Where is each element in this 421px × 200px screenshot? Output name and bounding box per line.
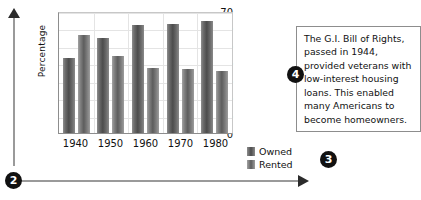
legend-item-owned: Owned — [247, 146, 293, 157]
legend-label-rented: Rented — [259, 159, 293, 170]
bar-group — [59, 13, 94, 133]
y-axis-label: Percentage — [37, 11, 47, 91]
marker-badge-3: 3 — [320, 151, 337, 168]
marker-badge-2: 2 — [5, 172, 22, 189]
bar-group — [128, 13, 163, 133]
bar-rented-1950 — [112, 56, 124, 133]
bar-owned-1960 — [132, 25, 144, 133]
bar-rented-1970 — [182, 69, 194, 133]
bar-rented-1980 — [216, 71, 228, 133]
annotation-vertical-arrow-head — [8, 8, 20, 18]
legend-swatch-icon-owned — [247, 147, 255, 156]
legend-swatch-icon-rented — [247, 160, 255, 169]
bar-owned-1940 — [63, 58, 75, 133]
x-axis-tick: 1980 — [198, 138, 233, 154]
bar-group — [163, 13, 198, 133]
bar-groups — [59, 13, 232, 133]
bar-rented-1940 — [78, 35, 90, 133]
bar-owned-1950 — [97, 38, 109, 133]
bar-owned-1980 — [201, 21, 213, 133]
marker-badge-4: 4 — [287, 66, 304, 83]
annotation-horizontal-arrow-head — [298, 175, 309, 187]
annotation-vertical-arrow-line — [13, 16, 15, 166]
x-axis-tick: 1960 — [128, 138, 163, 154]
x-axis-tick: 1940 — [58, 138, 93, 154]
chart-legend: Owned Rented — [247, 146, 293, 172]
bar-group — [94, 13, 129, 133]
bar-rented-1960 — [147, 68, 159, 133]
plot-area — [58, 12, 233, 134]
callout-textbox: The G.I. Bill of Rights, passed in 1944,… — [296, 26, 421, 132]
legend-item-rented: Rented — [247, 159, 293, 170]
x-axis-tick: 1950 — [93, 138, 128, 154]
bar-chart: Percentage 010203040506070 1940195019601… — [28, 6, 233, 158]
bar-owned-1970 — [167, 24, 179, 133]
annotation-horizontal-arrow-line — [14, 180, 300, 182]
legend-label-owned: Owned — [259, 146, 292, 157]
bar-group — [197, 13, 232, 133]
x-axis-tick: 1970 — [163, 138, 198, 154]
x-axis-ticks: 19401950196019701980 — [58, 138, 233, 154]
